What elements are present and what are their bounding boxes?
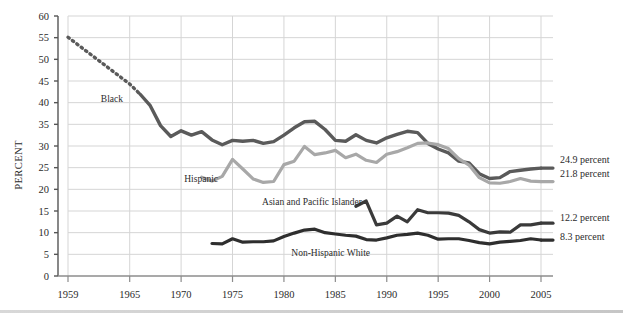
x-tick-label: 1990 — [376, 289, 397, 300]
chart-canvas: 051015202530354045505560 195919651970197… — [0, 0, 623, 313]
series-asian-and-pacific-islander-line — [356, 201, 541, 233]
y-tick-label: 50 — [39, 54, 50, 65]
series-black-line — [140, 94, 541, 179]
x-tick-label: 2000 — [479, 289, 500, 300]
end-label-hispanic: 21.8 percent — [560, 168, 610, 179]
poverty-rate-line-chart: 051015202530354045505560 195919651970197… — [0, 0, 623, 313]
series-label-hispanic: Hispanic — [184, 174, 218, 184]
x-tick-labels: 1959196519701975198019851990199520002005 — [58, 289, 552, 300]
y-tick-label: 55 — [39, 32, 50, 43]
series-black-dotted — [68, 37, 140, 94]
x-tick-label: 1959 — [58, 289, 79, 300]
y-tick-label: 35 — [39, 119, 50, 130]
end-label-asian: 12.2 percent — [560, 212, 610, 223]
x-tick-label: 2005 — [531, 289, 552, 300]
y-tick-label: 45 — [39, 76, 50, 87]
y-tick-label: 25 — [39, 162, 50, 173]
y-tick-label: 20 — [39, 184, 50, 195]
y-axis — [54, 16, 58, 276]
series-label-white: Non-Hispanic White — [291, 248, 370, 258]
y-tick-label: 10 — [39, 227, 50, 238]
series-lines — [68, 37, 553, 244]
x-tick-label: 1965 — [119, 289, 140, 300]
y-tick-label: 0 — [44, 271, 49, 282]
x-axis — [58, 276, 553, 282]
gridlines — [68, 16, 553, 276]
y-tick-label: 40 — [39, 97, 50, 108]
series-label-asian: Asian and Pacific Islander — [262, 197, 363, 207]
y-axis-title: PERCENT — [13, 140, 24, 190]
end-label-black: 24.9 percent — [560, 154, 610, 165]
end-label-white: 8.3 percent — [560, 231, 605, 242]
y-tick-label: 30 — [39, 141, 50, 152]
x-tick-label: 1995 — [428, 289, 449, 300]
y-tick-label: 5 — [44, 249, 49, 260]
x-tick-label: 1985 — [325, 289, 346, 300]
x-tick-label: 1975 — [222, 289, 243, 300]
y-tick-labels: 051015202530354045505560 — [39, 11, 50, 282]
y-tick-label: 60 — [39, 11, 50, 22]
x-tick-label: 1980 — [273, 289, 294, 300]
series-label-black: Black — [101, 94, 123, 104]
x-tick-label: 1970 — [171, 289, 192, 300]
y-tick-label: 15 — [39, 206, 50, 217]
